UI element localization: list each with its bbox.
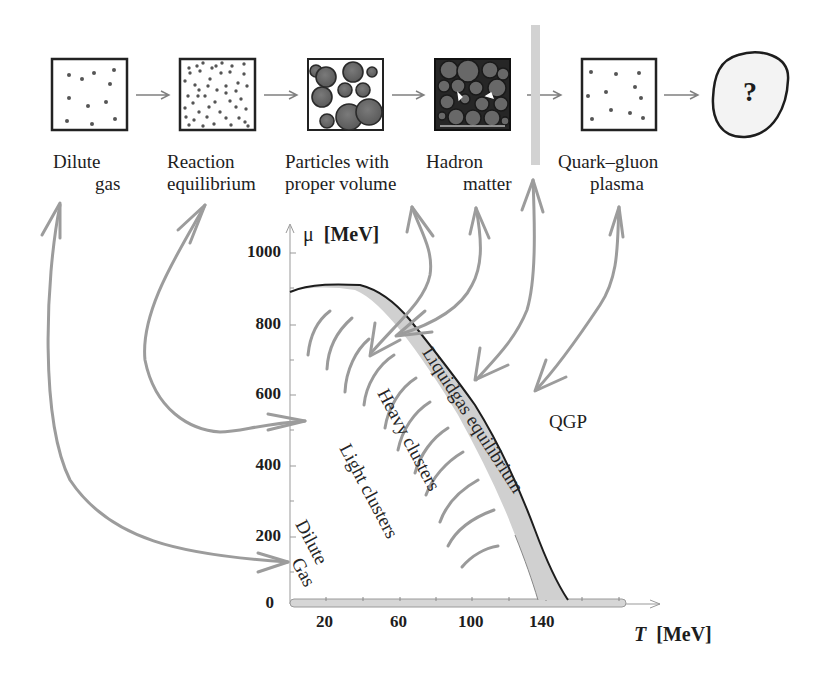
y-tick-600: 600 bbox=[231, 384, 281, 404]
phase-diagram-figure: Dilute gas Reaction equilibrium Particle… bbox=[0, 0, 813, 676]
mu-symbol: μ bbox=[303, 223, 314, 245]
y-tick-200: 200 bbox=[231, 526, 281, 546]
stage-label-particles-volume: Particles with proper volume bbox=[285, 151, 396, 195]
quark-gluon-plasma-box-icon bbox=[582, 59, 656, 130]
t-axis-band bbox=[290, 599, 626, 607]
reaction-equilibrium-box-icon bbox=[180, 59, 255, 130]
x-tick-140: 140 bbox=[529, 612, 555, 632]
label-line: Particles with bbox=[285, 151, 396, 173]
label-line: Quark–gluon bbox=[558, 151, 658, 173]
label-line: Dilute bbox=[53, 151, 120, 173]
dilute-gas-box-icon bbox=[52, 59, 127, 130]
phase-transition-divider bbox=[531, 25, 540, 165]
diagram-graphics bbox=[0, 0, 813, 676]
label-line: gas bbox=[53, 173, 120, 195]
stage-label-hadron-matter: Hadron matter bbox=[426, 151, 512, 195]
label-line: plasma bbox=[558, 173, 658, 195]
stage-label-qgp: Quark–gluon plasma bbox=[558, 151, 658, 195]
region-label-qgp: QGP bbox=[549, 411, 587, 433]
label-line: equilibrium bbox=[167, 173, 256, 195]
label-line: Reaction bbox=[167, 151, 256, 173]
particles-volume-box-icon bbox=[308, 59, 383, 130]
x-tick-20: 20 bbox=[316, 612, 333, 632]
y-unit: [MeV] bbox=[324, 223, 380, 245]
stage-label-dilute-gas: Dilute gas bbox=[53, 151, 120, 195]
x-tick-60: 60 bbox=[390, 612, 407, 632]
label-line: proper volume bbox=[285, 173, 396, 195]
label-line: matter bbox=[426, 173, 512, 195]
y-tick-400: 400 bbox=[231, 455, 281, 475]
question-mark-symbol: ? bbox=[743, 81, 757, 103]
label-line: Hadron bbox=[426, 151, 512, 173]
x-axis-label: T [MeV] bbox=[634, 623, 712, 645]
y-axis-label: μ [MeV] bbox=[303, 223, 379, 245]
x-tick-100: 100 bbox=[458, 612, 484, 632]
y-tick-0: 0 bbox=[224, 593, 274, 613]
stage-label-reaction-equilibrium: Reaction equilibrium bbox=[167, 151, 256, 195]
y-tick-1000: 1000 bbox=[231, 242, 281, 262]
y-tick-800: 800 bbox=[231, 314, 281, 334]
t-symbol: T bbox=[634, 623, 646, 645]
hadron-matter-box-icon bbox=[435, 59, 510, 130]
x-unit: [MeV] bbox=[656, 623, 712, 645]
